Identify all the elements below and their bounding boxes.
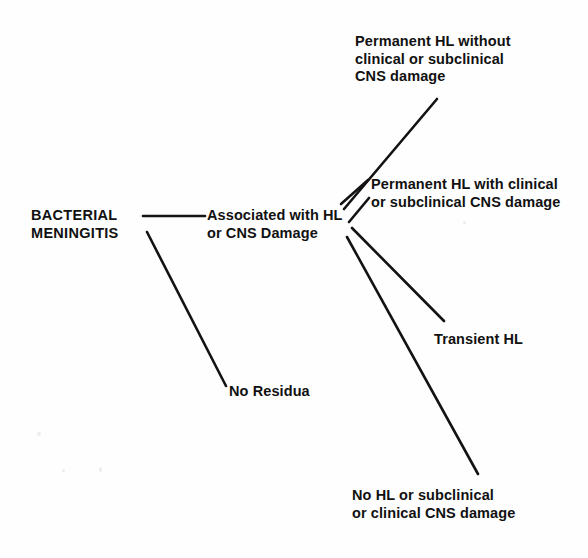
node-associated-with-hl: Associated with HL or CNS Damage [207,207,343,242]
diagram-canvas: BACTERIAL MENINGITIS Associated with HL … [0,0,588,558]
node-permanent-hl-with-cns-damage: Permanent HL with clinical or subclinica… [371,176,560,211]
edge-hub-to-no-hl [347,237,478,474]
node-permanent-hl-without-cns-damage: Permanent HL without clinical or subclin… [355,33,511,86]
scan-speckle [99,467,102,472]
edge-group [143,99,478,474]
node-no-residua: No Residua [229,383,310,401]
scan-speckle [37,432,41,436]
edge-hub-to-transient-hl [349,198,369,222]
scan-speckle [463,221,466,224]
edge-hub-to-transient-hl-main [352,228,444,321]
edge-root-to-no-residua [147,232,226,386]
edge-hub-to-permanent-hl-with [341,180,368,204]
node-bacterial-meningitis: BACTERIAL MENINGITIS [31,207,119,242]
node-no-hl-or-cns-damage: No HL or subclinical or clinical CNS dam… [352,487,515,522]
scan-speckle [62,469,65,472]
node-transient-hl: Transient HL [434,331,523,349]
